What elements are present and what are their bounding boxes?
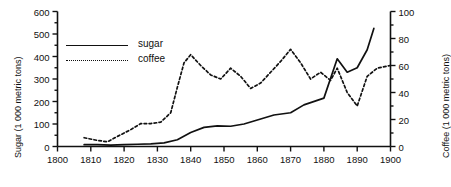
- y-tick-label-left-200: 200: [34, 96, 50, 107]
- series-line-coffee: [84, 49, 390, 141]
- y-tick-label-right-100: 100: [399, 6, 415, 17]
- y-tick-label-right-40: 40: [399, 87, 410, 98]
- x-tick-label-1820: 1820: [114, 154, 135, 165]
- y-tick-label-right-0: 0: [399, 141, 404, 152]
- y-tick-label-left-0: 0: [44, 141, 49, 152]
- y-tick-label-left-600: 600: [34, 6, 50, 17]
- y-tick-label-right-20: 20: [399, 114, 410, 125]
- x-tick-label-1810: 1810: [80, 154, 101, 165]
- y-tick-label-left-400: 400: [34, 51, 50, 62]
- y-tick-label-left-300: 300: [34, 74, 50, 85]
- y-tick-label-left-100: 100: [34, 119, 50, 130]
- x-tick-label-1840: 1840: [180, 154, 201, 165]
- x-tick-label-1830: 1830: [147, 154, 168, 165]
- x-tick-label-1870: 1870: [280, 154, 301, 165]
- x-tick-label-1900: 1900: [380, 154, 401, 165]
- x-tick-label-1850: 1850: [213, 154, 234, 165]
- y-tick-label-right-80: 80: [399, 33, 410, 44]
- y-tick-label-right-60: 60: [399, 60, 410, 71]
- x-tick-label-1890: 1890: [347, 154, 368, 165]
- x-tick-label-1880: 1880: [313, 154, 334, 165]
- y-tick-label-left-500: 500: [34, 29, 50, 40]
- x-tick-label-1860: 1860: [247, 154, 268, 165]
- series-line-sugar: [84, 28, 374, 145]
- x-tick-label-1800: 1800: [47, 154, 68, 165]
